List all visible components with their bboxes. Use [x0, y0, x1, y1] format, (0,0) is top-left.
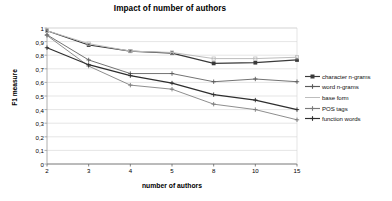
legend-item[interactable]: character n-grams — [304, 71, 392, 82]
chart-container: Impact of number of authors F1 measure n… — [0, 0, 392, 201]
legend-item[interactable]: word n-grams — [304, 82, 392, 93]
legend-label: base form — [321, 94, 349, 101]
data-point-marker — [212, 61, 216, 65]
legend-label: character n-grams — [321, 73, 371, 80]
legend-item[interactable]: base form — [304, 92, 392, 103]
legend-item[interactable]: POS tags — [304, 103, 392, 114]
legend-item[interactable]: function words — [304, 113, 392, 124]
data-point-marker — [253, 61, 257, 65]
legend-marker-icon — [304, 104, 321, 113]
legend-marker-icon — [304, 114, 321, 123]
legend-marker-icon — [304, 82, 321, 91]
legend-label: POS tags — [321, 105, 348, 112]
legend-label: function words — [321, 115, 361, 122]
legend-marker-icon — [304, 93, 321, 102]
chart-legend: character n-gramsword n-gramsbase formPO… — [304, 71, 392, 124]
legend-marker-icon — [304, 72, 321, 81]
legend-label: word n-grams — [321, 83, 359, 90]
